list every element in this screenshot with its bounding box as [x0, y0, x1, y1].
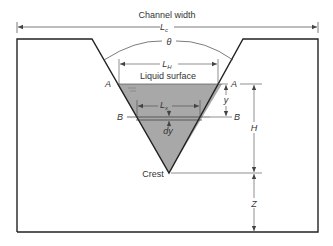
section-a-right: A [230, 79, 237, 89]
dy-label: dy [163, 126, 173, 136]
y-label: y [223, 95, 229, 105]
theta-label: θ [167, 37, 172, 47]
lh-symbol: LH [162, 59, 172, 70]
h-label: H [251, 123, 258, 133]
channel-width-label: Channel width [138, 10, 195, 20]
section-a-left: A [104, 79, 111, 89]
crest-label: Crest [142, 169, 164, 179]
section-b-right: B [234, 112, 240, 122]
z-label: Z [250, 199, 257, 209]
v-notch-weir-diagram: Channel width Lc θ LH Liquid surface A A… [0, 0, 333, 246]
liquid-surface-label: Liquid surface [140, 71, 196, 81]
section-b-left: B [117, 112, 123, 122]
